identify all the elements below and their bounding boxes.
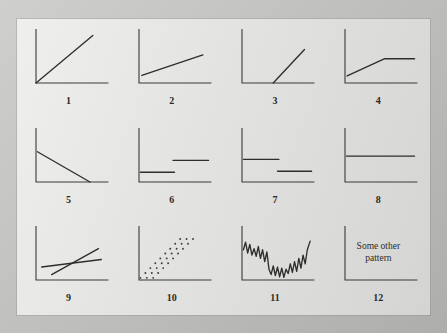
plot-axes xyxy=(242,29,314,83)
figure-page: 1234567891011Some otherpattern12 xyxy=(17,19,430,315)
scatter-dot xyxy=(185,238,187,240)
series-line-1 xyxy=(348,59,415,76)
panel-volatile-zigzag: 11 xyxy=(224,216,327,315)
scatter-dot xyxy=(171,253,173,255)
plot-area xyxy=(338,124,418,192)
scatter-dot xyxy=(154,263,156,265)
plot-axes xyxy=(36,29,108,83)
scatter-dot xyxy=(166,258,168,260)
plot-axes xyxy=(242,128,314,182)
panel-number-label: 12 xyxy=(373,293,383,303)
panel-step-up: 6 xyxy=(120,118,223,217)
series-line-1 xyxy=(51,249,98,275)
series-line-1 xyxy=(37,151,90,181)
scatter-dot xyxy=(161,263,163,265)
panel-rise-then-plateau: 4 xyxy=(327,19,430,118)
plot-axes xyxy=(36,128,108,182)
scatter-dot xyxy=(176,248,178,250)
plot-svg xyxy=(235,25,315,93)
scatter-dot xyxy=(177,253,179,255)
scatter-dot xyxy=(181,243,183,245)
scatter-dot xyxy=(159,258,161,260)
plot-area: Some otherpattern xyxy=(338,222,418,290)
series-line-1 xyxy=(36,35,93,83)
scatter-dot xyxy=(144,272,146,274)
plot-svg xyxy=(29,222,109,290)
panel-number-label: 4 xyxy=(376,96,381,106)
panel-number-label: 3 xyxy=(273,96,278,106)
plot-axes xyxy=(345,128,417,182)
panel-constant-level: 8 xyxy=(327,118,430,217)
plot-area xyxy=(235,124,315,192)
scatter-dot xyxy=(187,243,189,245)
scatter-dot xyxy=(174,243,176,245)
panel-linear-increase-from-origin: 1 xyxy=(17,19,120,118)
panel-number-label: 1 xyxy=(66,96,71,106)
panel-delayed-steep-increase: 3 xyxy=(224,19,327,118)
plot-area xyxy=(29,124,109,192)
plot-svg xyxy=(338,222,418,290)
plot-svg xyxy=(338,25,418,93)
panel-number-label: 7 xyxy=(273,195,278,205)
plot-area xyxy=(235,25,315,93)
plot-area xyxy=(132,222,212,290)
scatter-dot xyxy=(149,267,151,269)
panel-number-label: 10 xyxy=(167,293,177,303)
panel-step-down: 7 xyxy=(224,118,327,217)
scatter-dot xyxy=(164,253,166,255)
plot-svg xyxy=(29,124,109,192)
panel-crossing-lines: 9 xyxy=(17,216,120,315)
plot-area xyxy=(29,222,109,290)
scatter-dot xyxy=(152,277,154,279)
plot-area xyxy=(235,222,315,290)
panel-number-label: 6 xyxy=(169,195,174,205)
scatter-dot xyxy=(167,263,169,265)
plot-svg xyxy=(29,25,109,93)
plot-area xyxy=(338,25,418,93)
series-line-2 xyxy=(41,260,101,268)
plot-axes xyxy=(345,226,417,280)
panel-number-label: 11 xyxy=(270,293,280,303)
scatter-dot xyxy=(151,272,153,274)
panel-number-label: 8 xyxy=(376,195,381,205)
scatter-dot xyxy=(172,258,174,260)
plot-svg xyxy=(338,124,418,192)
plot-axes xyxy=(139,128,211,182)
panel-number-label: 9 xyxy=(66,293,71,303)
plot-svg xyxy=(132,25,212,93)
panel-linear-decrease-to-zero: 5 xyxy=(17,118,120,217)
scatter-dot xyxy=(157,272,159,274)
series-line-1 xyxy=(142,55,203,76)
scatter-dot xyxy=(192,238,194,240)
scatter-dot xyxy=(162,267,164,269)
plot-area xyxy=(132,124,212,192)
scatter-dot xyxy=(156,267,158,269)
plot-axes xyxy=(36,226,108,280)
series-line-1 xyxy=(244,241,311,277)
series-line-1 xyxy=(273,50,304,83)
plot-svg xyxy=(132,124,212,192)
panel-number-label: 5 xyxy=(66,195,71,205)
panel-some-other-pattern: Some otherpattern12 xyxy=(327,216,430,315)
panel-gentle-linear-increase: 2 xyxy=(120,19,223,118)
scatter-dot xyxy=(139,277,141,279)
panel-number-label: 2 xyxy=(169,96,174,106)
plot-area xyxy=(132,25,212,93)
scatter-dot xyxy=(169,248,171,250)
plot-axes xyxy=(139,226,211,280)
plot-axes xyxy=(345,29,417,83)
plot-svg xyxy=(235,124,315,192)
plot-svg xyxy=(235,222,315,290)
plot-svg xyxy=(132,222,212,290)
scatter-dot xyxy=(182,248,184,250)
panel-scattered-diagonal-bands: 10 xyxy=(120,216,223,315)
plot-area xyxy=(29,25,109,93)
scatter-dot xyxy=(146,277,148,279)
scatter-dot xyxy=(179,238,181,240)
figure-root: 1234567891011Some otherpattern12 xyxy=(0,0,447,333)
panel-grid: 1234567891011Some otherpattern12 xyxy=(17,19,430,315)
